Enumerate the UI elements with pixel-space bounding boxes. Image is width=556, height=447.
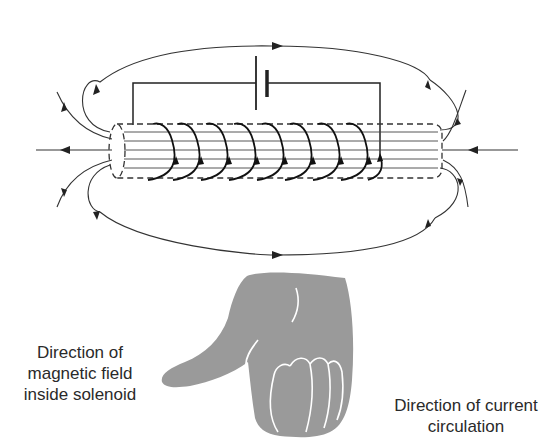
magnetic-field-direction-label: Direction of magnetic field inside solen…: [0, 342, 160, 405]
current-label-line2: circulation: [376, 416, 556, 437]
current-label-line1: Direction of current: [376, 395, 556, 416]
field-label-line2: magnetic field: [0, 363, 160, 384]
solenoid-core: [109, 124, 442, 178]
current-circulation-label: Direction of current circulation: [376, 395, 556, 437]
field-label-line1: Direction of: [0, 342, 160, 363]
field-arrow-icons: [60, 42, 478, 259]
field-label-line3: inside solenoid: [0, 384, 160, 405]
right-hand-icon: [162, 272, 353, 437]
battery-icon: [133, 56, 380, 155]
